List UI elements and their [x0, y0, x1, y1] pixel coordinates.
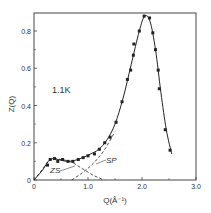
data-point [46, 164, 49, 167]
data-point [126, 78, 129, 81]
data-point [151, 31, 154, 34]
data-point [56, 160, 59, 163]
data-point [121, 100, 124, 103]
zs-curve-label: ZS [49, 166, 61, 175]
y-tick-label: 0.4 [21, 103, 31, 110]
sp-curve-label: SP [106, 156, 117, 165]
x-tick-label: 2.0 [137, 183, 147, 190]
y-tick-label: 0.6 [21, 65, 31, 72]
curves [34, 16, 172, 180]
data-point [77, 158, 80, 161]
data-point [98, 148, 101, 151]
x-axis-label: Q(Å⁻¹) [103, 196, 127, 205]
x-tick-label: 3.0 [191, 183, 201, 190]
data-point [71, 160, 74, 163]
data-point [67, 160, 70, 163]
data-point [82, 156, 85, 159]
data-point [138, 30, 141, 33]
data-point [115, 121, 118, 124]
zs-pointer [60, 166, 75, 171]
temperature-annotation: 1.1K [52, 85, 71, 95]
data-point [61, 158, 64, 161]
axes-frame [34, 13, 196, 180]
data-point [53, 157, 56, 160]
data-point [164, 128, 167, 131]
chart: 00.20.40.60.8 01.02.03.0 1.1K Z(Q) Q(Å⁻¹… [0, 0, 211, 213]
data-point [93, 152, 96, 155]
y-axis-label: Z(Q) [7, 95, 16, 112]
data-point [169, 149, 172, 152]
x-ticks: 01.02.03.0 [32, 177, 201, 190]
y-tick-label: 0 [27, 177, 31, 184]
data-point [157, 69, 160, 72]
y-tick-label: 0.8 [21, 28, 31, 35]
data-point [143, 15, 146, 18]
data-point [154, 48, 157, 51]
data-point [132, 54, 135, 57]
data-point [103, 141, 106, 144]
data-point [158, 87, 161, 90]
fit-curve [34, 16, 172, 180]
x-tick-label: 0 [32, 183, 36, 190]
sp-pointer [96, 160, 106, 164]
y-ticks: 00.20.40.60.8 [21, 28, 37, 184]
data-point [132, 43, 135, 46]
y-tick-label: 0.2 [21, 140, 31, 147]
data-point [109, 136, 112, 139]
data-point [148, 16, 151, 19]
x-tick-label: 1.0 [83, 183, 93, 190]
data-point [87, 154, 90, 157]
data-point [129, 69, 132, 72]
data-point [49, 158, 52, 161]
